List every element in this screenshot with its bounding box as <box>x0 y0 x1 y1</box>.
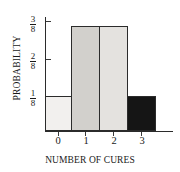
y-tick-label-1-8: 1 8 <box>22 89 44 108</box>
bar-category-0 <box>45 96 72 131</box>
x-tick-label-1: 1 <box>74 136 98 147</box>
bar-category-2 <box>99 26 128 131</box>
y-tick-denominator: 8 <box>30 99 37 108</box>
bar-category-3 <box>127 96 156 131</box>
y-tick-label-3-8: 3 8 <box>22 15 44 34</box>
x-axis-title: NUMBER OF CURES <box>0 155 180 165</box>
y-tick-denominator: 8 <box>30 62 37 71</box>
y-axis-title: PROBABILITY <box>12 20 22 116</box>
x-tick-label-2: 2 <box>102 136 126 147</box>
plot-area <box>45 17 173 131</box>
probability-histogram: PROBABILITY 3 8 2 8 1 8 0 1 2 <box>0 0 180 172</box>
y-tick-denominator: 8 <box>30 25 37 34</box>
x-axis-line <box>45 131 173 132</box>
y-tick-label-2-8: 2 8 <box>22 52 44 71</box>
x-tick-label-3: 3 <box>130 136 154 147</box>
bar-category-1 <box>71 26 100 131</box>
x-tick-label-0: 0 <box>46 136 70 147</box>
